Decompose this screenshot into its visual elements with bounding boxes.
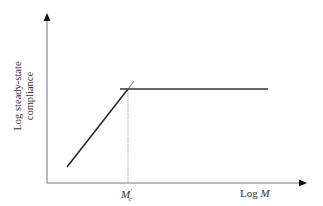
compliance-diagram — [0, 0, 323, 206]
rising-extension — [128, 81, 134, 89]
x-axis-label: Log M — [240, 187, 270, 199]
y-axis-label-line2: compliance — [24, 61, 36, 130]
critical-mass-label: M′c — [121, 187, 132, 203]
y-axis-arrow-icon — [44, 13, 51, 21]
x-axis-arrow-icon — [299, 180, 307, 187]
y-axis-label-line1: Log steady-state — [12, 61, 24, 130]
y-axis-label: Log steady-state compliance — [6, 0, 42, 206]
rising-segment — [67, 89, 128, 167]
